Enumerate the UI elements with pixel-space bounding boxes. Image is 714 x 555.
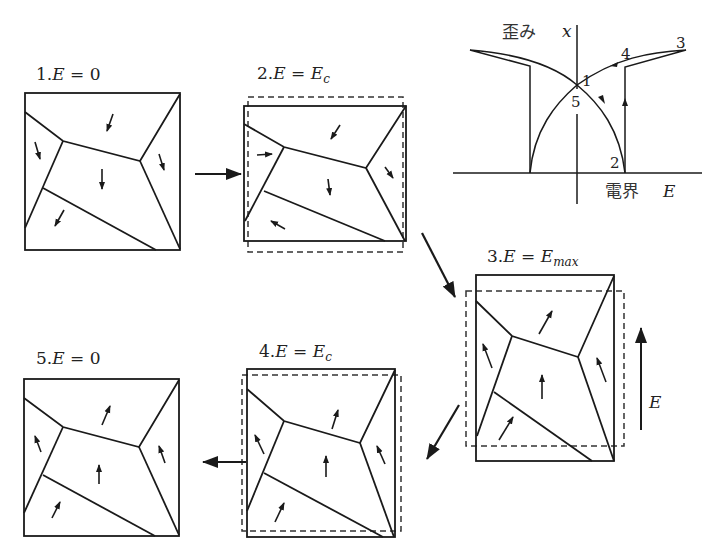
panel-4: 4.E = Ec [242, 341, 401, 537]
applied-field-label: E [648, 392, 662, 412]
panel-1-label: 1.E = 0 [36, 64, 101, 84]
original-shape-outline-4 [242, 375, 401, 531]
transition-arrow-3-to-4 [427, 405, 459, 459]
panel-4-label: 4.E = Ec [259, 341, 332, 364]
point-label-1: 1 [582, 72, 592, 90]
transition-arrow-2-to-3 [422, 233, 455, 297]
panel-2-label: 2.E = Ec [257, 63, 330, 86]
panel-3: 3.E = Emax E [466, 246, 662, 461]
curve-direction-arrow [622, 98, 628, 106]
panel-1: 1.E = 0 [25, 64, 180, 250]
panel-2: 2.E = Ec [244, 63, 406, 252]
crystal-box-4 [247, 369, 395, 537]
point-label-3: 3 [676, 34, 686, 52]
point-label-4: 4 [621, 45, 631, 63]
polarization-arrows-3 [483, 311, 606, 440]
strain-field-butterfly-curve: 歪み x 1 2 3 4 5 電界 E [453, 21, 702, 204]
y-axis-label-var: x [562, 21, 572, 41]
point-label-5: 5 [571, 93, 581, 111]
domain-switching-diagram: 1.E = 0 2.E = Ec [0, 0, 714, 555]
point-label-2: 2 [610, 154, 620, 172]
panel-5: 5.E = 0 [24, 348, 179, 536]
polarization-arrows-2 [257, 125, 393, 229]
crystal-box-3 [476, 275, 614, 461]
panel-3-label: 3.E = Emax [487, 246, 579, 269]
original-shape-outline-2 [248, 97, 403, 252]
polarization-arrows-4 [255, 410, 385, 522]
crystal-box-2 [244, 106, 406, 241]
x-axis-label-jp: 電界 [605, 181, 639, 201]
x-axis-label-var: E [662, 181, 676, 201]
crystal-box-5 [24, 379, 179, 536]
y-axis-label-jp: 歪み [502, 22, 536, 42]
curve-direction-arrow [598, 95, 605, 104]
panel-5-label: 5.E = 0 [36, 348, 101, 368]
